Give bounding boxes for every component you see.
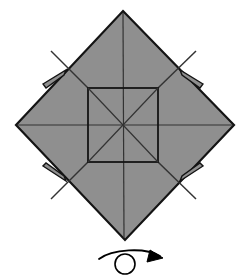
origami-step-figure [0,0,245,278]
origami-diagram-container [0,0,245,278]
